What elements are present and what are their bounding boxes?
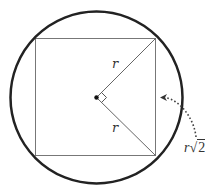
right-angle-marker: [102, 93, 107, 103]
sqrt-symbol: √: [189, 140, 197, 155]
radius-lower: [97, 98, 156, 156]
center-point: [94, 95, 98, 99]
radius-upper: [97, 39, 156, 98]
arrowhead-icon: [160, 94, 167, 101]
side-length-label: r√2: [184, 141, 205, 155]
radius-label-lower: r: [112, 121, 118, 134]
square-inscribed-in-circle-diagram: [0, 0, 218, 191]
sqrt-radicand: 2: [197, 139, 205, 155]
radius-label-upper: r: [112, 57, 118, 70]
